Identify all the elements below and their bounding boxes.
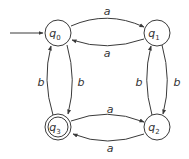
- state-q2: q2: [144, 114, 170, 140]
- edge-label-q3-q2: a: [107, 103, 114, 116]
- state-q2-sub: 2: [155, 128, 159, 136]
- state-q3-label: q: [49, 121, 56, 134]
- automaton-diagram: a a a a b b b b q0 q1 q2 q3: [0, 0, 189, 159]
- state-q0: q0: [45, 20, 71, 46]
- state-q1-label: q: [148, 27, 155, 40]
- edge-label-q0-q3: b: [78, 76, 85, 89]
- edge-q0-q3: [67, 45, 72, 114]
- state-q2-label: q: [148, 121, 155, 134]
- edge-q1-q0: [72, 39, 144, 46]
- state-q0-sub: 0: [56, 34, 60, 42]
- edge-label-q2-q3: a: [107, 142, 114, 155]
- state-q3-accepting: q3: [45, 114, 71, 140]
- state-q1: q1: [144, 20, 170, 46]
- edge-label-q2-q1: b: [136, 76, 143, 89]
- edge-label-q1-q2: b: [174, 76, 181, 89]
- edge-label-q0-q1: a: [104, 5, 111, 18]
- edge-q2-q3: [73, 134, 144, 141]
- state-q3-sub: 3: [56, 128, 60, 136]
- edge-q3-q0: [47, 46, 53, 115]
- edge-q0-q1: [71, 18, 144, 27]
- state-q1-sub: 1: [155, 34, 159, 42]
- edge-label-q1-q0: a: [104, 47, 111, 60]
- state-q0-label: q: [49, 27, 56, 40]
- edge-q2-q1: [147, 46, 152, 115]
- edge-label-q3-q0: b: [38, 76, 45, 89]
- edge-q1-q2: [162, 45, 167, 114]
